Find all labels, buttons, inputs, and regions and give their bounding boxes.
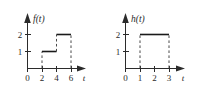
- x-tick-label-3-h: 3: [167, 73, 172, 83]
- y-tick-label-2-f: 2: [18, 30, 23, 40]
- x-tick-label-4-f: 4: [54, 73, 59, 83]
- x-tick-label-6-f: 6: [69, 73, 74, 83]
- y-axis-arrow-icon: [24, 13, 31, 23]
- chart-f-svg: 2 1 0 2 4 6 t f(t): [0, 0, 98, 90]
- chart-h-svg: 2 1 0 1 2 3 t h(t): [98, 0, 197, 90]
- y-tick-label-1-f: 1: [18, 47, 23, 57]
- y-axis-h: [122, 13, 129, 69]
- x-axis-label-f: t: [83, 73, 86, 83]
- x-tick-label-2-h: 2: [152, 73, 157, 83]
- function-label-f: f(t): [33, 14, 45, 25]
- x-axis-arrow-icon: [176, 65, 185, 71]
- chart-h-of-t: 2 1 0 1 2 3 t h(t): [98, 0, 197, 90]
- y-tick-label-2-h: 2: [116, 30, 121, 40]
- x-tick-label-1-h: 1: [138, 73, 143, 83]
- dashed-guides-h: [140, 35, 169, 69]
- x-tick-label-2-f: 2: [40, 73, 45, 83]
- x-tick-label-0-h: 0: [123, 73, 128, 83]
- function-label-h: h(t): [131, 14, 145, 25]
- x-axis-label-h: t: [182, 73, 185, 83]
- figure-root: 2 1 0 2 4 6 t f(t): [0, 0, 197, 90]
- x-axis-h: [126, 65, 186, 71]
- chart-f-of-t: 2 1 0 2 4 6 t f(t): [0, 0, 98, 90]
- x-tick-label-0-f: 0: [25, 73, 30, 83]
- x-axis-arrow-icon: [77, 65, 86, 71]
- y-axis-f: [24, 13, 31, 69]
- y-axis-arrow-icon: [122, 13, 129, 23]
- y-tick-label-1-h: 1: [116, 47, 121, 57]
